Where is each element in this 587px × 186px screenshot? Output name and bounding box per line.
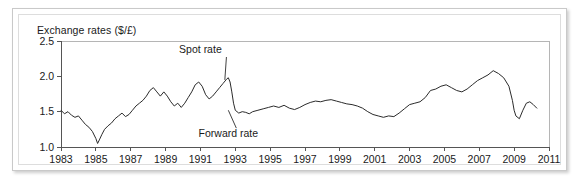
svg-text:1985: 1985 (84, 153, 108, 165)
svg-text:1997: 1997 (293, 153, 317, 165)
svg-text:2001: 2001 (363, 153, 387, 165)
svg-text:1993: 1993 (224, 153, 248, 165)
svg-text:1991: 1991 (189, 153, 213, 165)
exchange-rate-chart: Exchange rates ($/£) 1983198519871989199… (19, 15, 560, 164)
svg-text:2007: 2007 (468, 153, 492, 165)
x-axis-ticks: 1983198519871989199119931995199719992001… (49, 147, 560, 165)
svg-text:1983: 1983 (49, 153, 73, 165)
svg-text:1989: 1989 (154, 153, 178, 165)
plot-frame (61, 41, 549, 147)
svg-text:1999: 1999 (328, 153, 352, 165)
svg-text:1.0: 1.0 (39, 141, 54, 153)
plot-svg: 1983198519871989199119931995199719992001… (19, 15, 562, 166)
svg-text:Spot rate: Spot rate (179, 43, 222, 55)
figure-inner-panel: Exchange rates ($/£) 1983198519871989199… (18, 14, 561, 165)
svg-text:2003: 2003 (398, 153, 422, 165)
svg-text:2.0: 2.0 (39, 70, 54, 82)
annotations: Spot rateForward rate (179, 43, 258, 139)
svg-text:Forward rate: Forward rate (199, 127, 259, 139)
svg-text:2.5: 2.5 (39, 35, 54, 47)
y-axis-ticks: 1.01.52.02.5 (39, 35, 61, 153)
svg-text:1987: 1987 (119, 153, 143, 165)
svg-text:1.5: 1.5 (39, 105, 54, 117)
figure-frame: Exchange rates ($/£) 1983198519871989199… (12, 8, 567, 171)
series-spot-rate (61, 71, 537, 144)
svg-text:2005: 2005 (433, 153, 457, 165)
svg-text:2009: 2009 (502, 153, 526, 165)
svg-text:2011: 2011 (538, 153, 561, 165)
svg-text:1995: 1995 (258, 153, 282, 165)
